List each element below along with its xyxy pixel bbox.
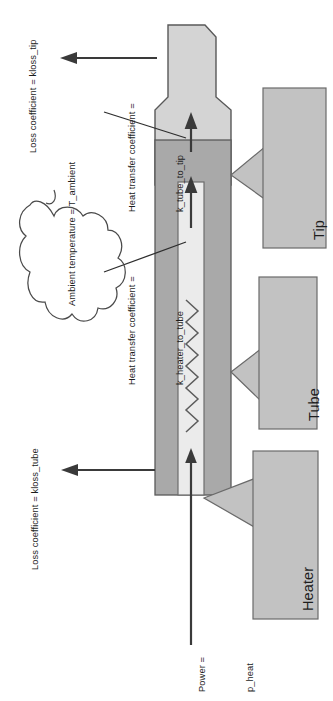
callout-heater-title: Heater <box>300 480 317 611</box>
label-power: Power = p_heat <box>160 657 293 692</box>
tip-loss-arrow <box>60 52 157 64</box>
label-k-heater-to-tube: Heat transfer coefficient = k_heater_to_… <box>90 276 223 385</box>
label-power-line1: Power = <box>197 657 208 692</box>
tube-loss-arrow <box>61 464 155 476</box>
callout-tip-text: Tip Mass = m_tip Specific heat capacity … <box>274 125 333 240</box>
callout-tip-title: Tip <box>311 125 328 240</box>
label-power-line2: p_heat <box>245 657 256 692</box>
ambient-cloud-tail <box>46 190 55 204</box>
label-k-tube-to-tip: Heat transfer coefficient = k_tube_to_ti… <box>90 103 223 212</box>
diagram-canvas: Loss coefficient = kloss_tip Loss coeffi… <box>0 0 333 701</box>
label-loss-tip: Loss coefficient = kloss_tip <box>28 40 39 153</box>
label-ambient-temperature: Ambient temperature = T_ambient <box>67 162 78 306</box>
callout-tube-text: Tube Mass = m_tube Specific heat capacit… <box>269 298 333 421</box>
label-k-tube-to-tip-line2: k_tube_to_tip <box>175 103 186 212</box>
label-k-heater-to-tube-line2: k_heater_to_tube <box>175 276 186 385</box>
label-k-heater-to-tube-line1: Heat transfer coefficient = <box>127 276 138 385</box>
callout-tube-title: Tube <box>306 298 323 421</box>
callout-heater-text: Heater Mass = m_heater Specific heat cap… <box>263 480 333 611</box>
label-k-tube-to-tip-line1: Heat transfer coefficient = <box>127 103 138 212</box>
label-loss-tube: Loss coefficient = kloss_tube <box>30 448 41 570</box>
